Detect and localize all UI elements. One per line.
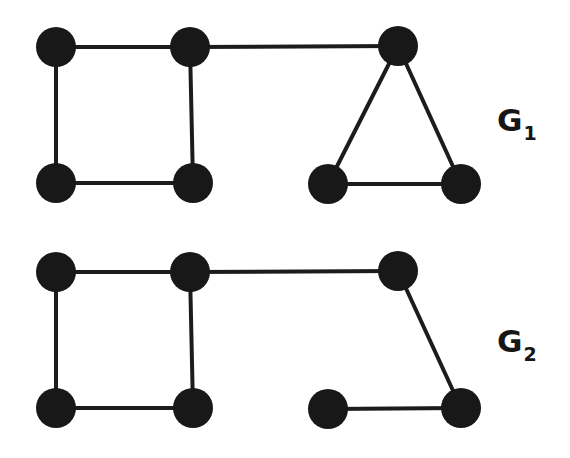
g1-node-d — [36, 163, 76, 203]
graph-diagram — [0, 0, 570, 458]
g1-node-c — [378, 26, 418, 66]
g1-node-g — [441, 164, 481, 204]
graph-g2-edges — [56, 271, 461, 409]
g1-edge-c-g — [398, 46, 461, 184]
graph-g1-label-main: G — [497, 102, 522, 138]
g1-node-e — [173, 163, 213, 203]
g1-edge-b-e — [190, 47, 193, 183]
g2-node-b — [170, 252, 210, 292]
g2-node-a — [36, 252, 76, 292]
graph-g1-label-subscript: 1 — [523, 122, 536, 144]
graph-g1 — [36, 26, 481, 204]
g2-node-g — [441, 388, 481, 428]
g1-node-a — [36, 27, 76, 67]
graph-g2-label-subscript: 2 — [523, 343, 536, 365]
graph-g1-label: G1 — [497, 105, 537, 136]
g2-node-e — [173, 388, 213, 428]
g1-edge-c-f — [328, 46, 398, 184]
g2-node-c — [378, 251, 418, 291]
graph-g2-label-main: G — [497, 323, 522, 359]
g2-node-d — [36, 388, 76, 428]
g1-node-f — [308, 164, 348, 204]
g2-node-f — [308, 389, 348, 429]
g2-edge-b-c — [190, 271, 398, 272]
graph-g1-nodes — [36, 26, 481, 204]
graph-g1-edges — [56, 46, 461, 184]
graph-g2-nodes — [36, 251, 481, 429]
g2-edge-c-g — [398, 271, 461, 408]
graph-g2-label: G2 — [497, 326, 537, 357]
g2-edge-b-e — [190, 272, 193, 408]
g1-edge-b-c — [190, 46, 398, 47]
graph-g2 — [36, 251, 481, 429]
g1-node-b — [170, 27, 210, 67]
